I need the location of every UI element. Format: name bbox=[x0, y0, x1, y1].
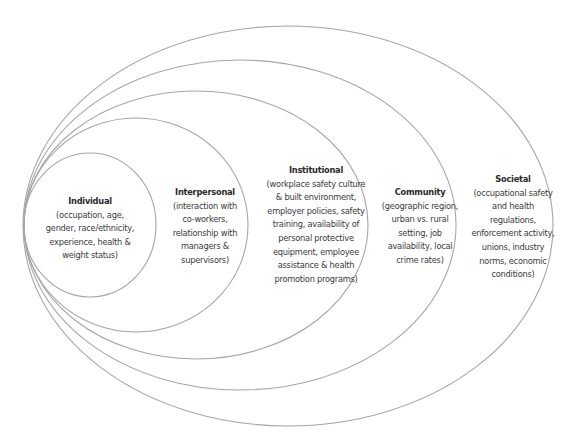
level-institutional: Institutional (workplace safety culture … bbox=[258, 163, 374, 285]
level-description: (interaction with co-workers, relationsh… bbox=[160, 199, 250, 267]
level-community: Community (geographic region, urban vs. … bbox=[374, 185, 466, 267]
level-title: Interpersonal bbox=[160, 185, 250, 199]
level-description: (occupation, age, gender, race/ethnicity… bbox=[30, 208, 150, 262]
level-description: (occupational safety and health regulati… bbox=[458, 186, 568, 281]
level-title: Individual bbox=[30, 194, 150, 208]
level-description: (workplace safety culture & built enviro… bbox=[258, 177, 374, 286]
level-interpersonal: Interpersonal (interaction with co-worke… bbox=[160, 185, 250, 267]
level-title: Societal bbox=[458, 172, 568, 186]
level-title: Institutional bbox=[258, 163, 374, 177]
socio-ecological-diagram: Individual (occupation, age, gender, rac… bbox=[0, 0, 575, 435]
level-societal: Societal (occupational safety and health… bbox=[458, 172, 568, 281]
level-description: (geographic region, urban vs. rural sett… bbox=[374, 199, 466, 267]
level-individual: Individual (occupation, age, gender, rac… bbox=[30, 194, 150, 262]
level-title: Community bbox=[374, 185, 466, 199]
